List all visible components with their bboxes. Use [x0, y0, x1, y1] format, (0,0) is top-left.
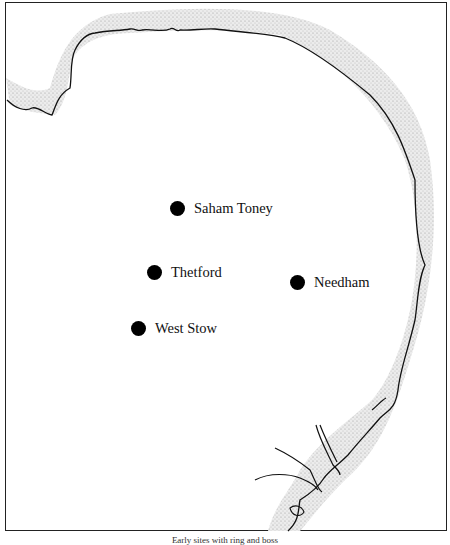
site-marker-icon — [290, 275, 305, 290]
site-label: Needham — [314, 274, 370, 291]
site-needham: Needham — [290, 274, 370, 291]
site-marker-icon — [170, 201, 185, 216]
site-marker-icon — [147, 265, 162, 280]
site-label: Thetford — [171, 264, 222, 281]
site-label: West Stow — [155, 320, 217, 337]
site-west-stow: West Stow — [131, 320, 217, 337]
site-marker-icon — [131, 321, 146, 336]
site-saham-toney: Saham Toney — [170, 200, 273, 217]
site-label: Saham Toney — [194, 200, 273, 217]
map-caption: Early sites with ring and boss — [0, 535, 450, 545]
site-thetford: Thetford — [147, 264, 222, 281]
